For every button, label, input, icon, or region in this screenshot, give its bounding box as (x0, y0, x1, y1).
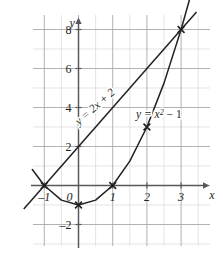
axes (31, 18, 210, 249)
y-tick-label: 6 (66, 62, 72, 76)
graph-figure: –10123–22468 y = 2x + 2y = 2x + 2y = x2 … (0, 0, 223, 254)
y-tick-label: 4 (66, 101, 72, 115)
coordinate-plot: –10123–22468 y = 2x + 2y = 2x + 2y = x2 … (0, 0, 223, 254)
curves (24, 0, 197, 209)
grid-minor (33, 15, 210, 246)
y-axis-label: y (69, 16, 76, 30)
y-tick-label: –2 (59, 218, 72, 232)
x-axis-label: x (208, 188, 215, 202)
svg-text:y = x2 − 1: y = x2 − 1 (135, 108, 182, 122)
x-tick-label: 3 (177, 190, 184, 204)
x-tick-label: 1 (110, 190, 116, 204)
parabola-equation-label: y = x2 − 1y = x2 − 1 (135, 108, 182, 122)
y-tick-label: 2 (66, 140, 72, 154)
grid-major (33, 15, 210, 246)
parabola-curve (32, 0, 189, 205)
x-tick-label: 2 (144, 190, 150, 204)
